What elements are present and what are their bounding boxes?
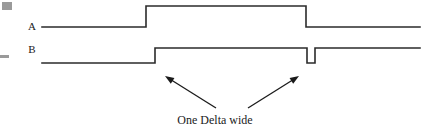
left-arrow-shaft xyxy=(171,80,216,108)
top-left-mark xyxy=(2,2,12,10)
right-annotation-arrow xyxy=(248,76,299,108)
right-arrow-shaft xyxy=(248,80,293,108)
timing-diagram-figure: A B One Delta wide xyxy=(0,0,430,130)
signal-label-b: B xyxy=(28,43,35,55)
signal-label-a: A xyxy=(28,20,36,32)
signal-waveform-a xyxy=(42,6,420,27)
left-annotation-arrow xyxy=(165,76,216,108)
timing-diagram-canvas: A B One Delta wide xyxy=(0,0,430,130)
signal-waveform-b xyxy=(42,48,420,63)
right-arrow-head xyxy=(290,76,299,84)
left-arrow-head xyxy=(165,76,174,84)
mid-left-mark xyxy=(0,55,9,58)
caption-label: One Delta wide xyxy=(177,113,252,127)
